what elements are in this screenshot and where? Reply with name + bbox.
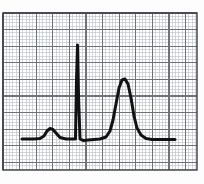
ecg-figure [0,0,204,184]
ecg-chart-svg [0,0,204,184]
plot-background [3,13,197,170]
